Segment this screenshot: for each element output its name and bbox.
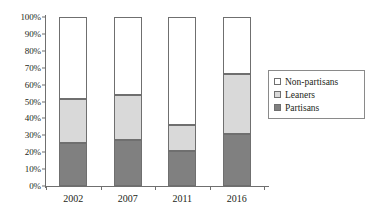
y-tick-mark bbox=[42, 67, 46, 68]
bar-column[interactable] bbox=[59, 17, 87, 186]
y-tick-label: 90% bbox=[25, 29, 41, 38]
bar-segment-leaners[interactable] bbox=[168, 125, 196, 150]
y-tick-mark bbox=[42, 135, 46, 136]
legend-item-partisans[interactable]: Partisans bbox=[274, 101, 359, 114]
bar-segment-leaners[interactable] bbox=[114, 95, 142, 140]
bar-segment-partisans[interactable] bbox=[168, 151, 196, 186]
legend-swatch-partisans bbox=[274, 104, 281, 111]
x-tick-mark bbox=[101, 186, 102, 190]
y-tick-label: 50% bbox=[25, 97, 41, 106]
plot-area bbox=[46, 17, 264, 186]
bar-segment-non-partisans[interactable] bbox=[114, 17, 142, 95]
y-tick-label: 80% bbox=[25, 46, 41, 55]
x-tick-label: 2007 bbox=[98, 193, 158, 205]
y-tick-mark bbox=[42, 118, 46, 119]
x-tick-mark bbox=[155, 186, 156, 190]
stacked-bar-chart: 0%10%20%30%40%50%60%70%80%90%100% 200220… bbox=[0, 0, 371, 217]
y-tick-mark bbox=[42, 84, 46, 85]
bar-segment-partisans[interactable] bbox=[223, 134, 251, 186]
legend-label-non-partisans: Non-partisans bbox=[285, 77, 338, 87]
x-tick-label: 2011 bbox=[152, 193, 212, 205]
x-tick-mark bbox=[46, 186, 47, 190]
bar-segment-partisans[interactable] bbox=[114, 140, 142, 186]
bar-segment-leaners[interactable] bbox=[59, 99, 87, 143]
bar-column[interactable] bbox=[223, 17, 251, 186]
legend-item-leaners[interactable]: Leaners bbox=[274, 88, 359, 101]
x-tick-mark bbox=[264, 186, 265, 190]
bar-segment-partisans[interactable] bbox=[59, 143, 87, 186]
legend-label-leaners: Leaners bbox=[285, 90, 315, 100]
legend-swatch-non-partisans bbox=[274, 78, 281, 85]
y-tick-mark bbox=[42, 17, 46, 18]
y-tick-mark bbox=[42, 101, 46, 102]
y-tick-label: 100% bbox=[20, 13, 41, 22]
y-tick-label: 60% bbox=[25, 80, 41, 89]
y-tick-label: 40% bbox=[25, 114, 41, 123]
y-tick-mark bbox=[42, 169, 46, 170]
x-tick-mark bbox=[210, 186, 211, 190]
x-tick-label: 2016 bbox=[207, 193, 267, 205]
y-tick-label: 20% bbox=[25, 148, 41, 157]
bar-segment-non-partisans[interactable] bbox=[223, 17, 251, 74]
y-tick-mark bbox=[42, 33, 46, 34]
y-tick-label: 30% bbox=[25, 131, 41, 140]
bar-column[interactable] bbox=[114, 17, 142, 186]
x-tick-label: 2002 bbox=[43, 193, 103, 205]
y-tick-label: 0% bbox=[29, 182, 41, 191]
bar-segment-leaners[interactable] bbox=[223, 74, 251, 134]
bar-segment-non-partisans[interactable] bbox=[168, 17, 196, 125]
legend-label-partisans: Partisans bbox=[285, 103, 319, 113]
y-tick-mark bbox=[42, 186, 46, 187]
y-tick-label: 70% bbox=[25, 63, 41, 72]
bar-column[interactable] bbox=[168, 17, 196, 186]
y-axis-tick-labels: 0%10%20%30%40%50%60%70%80%90%100% bbox=[0, 0, 41, 217]
legend-item-non-partisans[interactable]: Non-partisans bbox=[274, 75, 359, 88]
x-axis-line bbox=[45, 186, 269, 187]
bar-segment-non-partisans[interactable] bbox=[59, 17, 87, 99]
legend-swatch-leaners bbox=[274, 91, 281, 98]
bar-group bbox=[46, 17, 264, 186]
y-tick-label: 10% bbox=[25, 165, 41, 174]
y-tick-mark bbox=[42, 152, 46, 153]
y-tick-mark bbox=[42, 50, 46, 51]
chart-legend: Non-partisans Leaners Partisans bbox=[268, 70, 365, 119]
